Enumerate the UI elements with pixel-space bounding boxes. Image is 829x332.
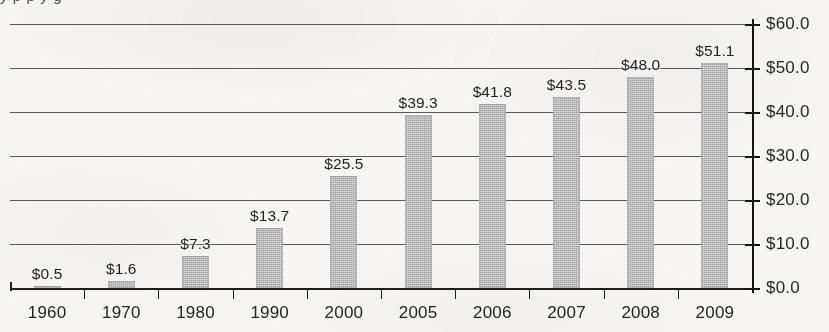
bar-value-label: $0.5 [32, 265, 63, 283]
y-axis-label: $30.0 [766, 146, 810, 166]
bar[interactable] [553, 97, 580, 288]
y-axis-label: $40.0 [766, 102, 810, 122]
y-axis-label: $60.0 [766, 14, 810, 34]
bar[interactable] [405, 115, 432, 288]
x-axis-category-label: 1970 [102, 303, 141, 323]
bar[interactable] [256, 228, 283, 288]
bar[interactable] [108, 281, 135, 288]
x-axis-category-label: 1980 [176, 303, 215, 323]
bar-chart: y p p y g $0.5$1.6$7.3$13.7$25.5$39.3$41… [0, 0, 829, 332]
x-axis-tick [381, 288, 382, 299]
y-axis-tick [745, 24, 760, 26]
x-axis-category-label: 2007 [547, 303, 586, 323]
bar-value-label: $48.0 [621, 56, 660, 74]
bar-value-label: $7.3 [180, 235, 211, 253]
x-axis-category-label: 1990 [250, 303, 289, 323]
x-axis-category-label: 2005 [399, 303, 438, 323]
x-axis-category-label: 2008 [621, 303, 660, 323]
y-axis-label: $20.0 [766, 190, 810, 210]
bar[interactable] [627, 77, 654, 288]
y-axis-tick [745, 288, 760, 290]
bar-value-label: $39.3 [398, 94, 437, 112]
bar-value-label: $41.8 [473, 83, 512, 101]
bar-value-label: $51.1 [695, 42, 734, 60]
y-axis-tick [745, 156, 760, 158]
y-axis-label: $10.0 [766, 234, 810, 254]
x-axis-category-label: 2009 [696, 303, 735, 323]
x-axis-category-label: 1960 [28, 303, 67, 323]
x-axis-tick [307, 288, 308, 299]
bar[interactable] [330, 176, 357, 288]
x-axis-category-label: 2000 [325, 303, 364, 323]
bar[interactable] [34, 286, 61, 288]
y-axis-tick [745, 112, 760, 114]
x-axis-category-label: 2006 [473, 303, 512, 323]
x-axis-tick [84, 288, 85, 299]
bar-value-label: $25.5 [324, 155, 363, 173]
bar-value-label: $13.7 [250, 207, 289, 225]
y-axis-tick [745, 244, 760, 246]
bar-value-label: $1.6 [106, 260, 137, 278]
cropped-title-text: y p p y g [0, 0, 62, 4]
y-axis-tick [745, 200, 760, 202]
x-axis-tick [529, 288, 530, 299]
x-axis-tick [158, 288, 159, 299]
y-axis-label: $50.0 [766, 58, 810, 78]
plot-area: $0.5$1.6$7.3$13.7$25.5$39.3$41.8$43.5$48… [10, 24, 752, 288]
y-axis-label: $0.0 [766, 278, 800, 298]
x-axis-tick [604, 288, 605, 299]
cropped-title-fragment: y p p y g [0, 0, 829, 11]
bar[interactable] [701, 63, 728, 288]
bar[interactable] [182, 256, 209, 288]
x-axis-tick [678, 288, 679, 299]
baseline-left-cap [10, 282, 12, 291]
bar[interactable] [479, 104, 506, 288]
y-axis-tick [745, 68, 760, 70]
x-axis-tick [455, 288, 456, 299]
gridline [10, 24, 752, 25]
bar-value-label: $43.5 [547, 76, 586, 94]
x-axis-tick [233, 288, 234, 299]
